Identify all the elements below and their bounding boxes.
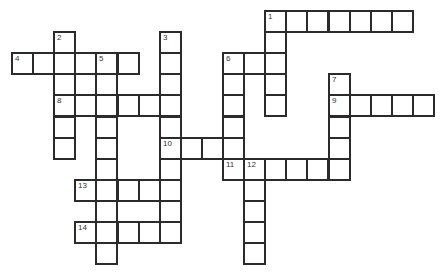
crossword-cell[interactable] bbox=[243, 221, 266, 244]
crossword-cell[interactable] bbox=[222, 137, 245, 160]
crossword-cell[interactable] bbox=[159, 179, 182, 202]
crossword-cell[interactable] bbox=[53, 116, 76, 139]
crossword-cell[interactable] bbox=[95, 200, 118, 223]
crossword-cell[interactable]: 3 bbox=[159, 31, 182, 54]
clue-number: 13 bbox=[78, 181, 87, 190]
crossword-cell[interactable] bbox=[328, 158, 351, 181]
crossword-cell[interactable] bbox=[412, 94, 435, 117]
crossword-cell[interactable] bbox=[159, 158, 182, 181]
crossword-cell[interactable] bbox=[95, 73, 118, 96]
crossword-cell[interactable] bbox=[306, 10, 329, 33]
crossword-cell[interactable] bbox=[74, 94, 97, 117]
crossword-cell[interactable] bbox=[74, 73, 97, 96]
crossword-cell[interactable] bbox=[285, 10, 308, 33]
crossword-cell[interactable]: 10 bbox=[159, 137, 182, 160]
crossword-grid: 1283104561179121314 bbox=[0, 0, 441, 275]
clue-number: 8 bbox=[57, 96, 61, 105]
crossword-cell[interactable] bbox=[222, 116, 245, 139]
clue-number: 3 bbox=[163, 33, 167, 42]
crossword-cell[interactable] bbox=[159, 73, 182, 96]
crossword-cell[interactable] bbox=[264, 31, 287, 54]
crossword-cell[interactable] bbox=[328, 116, 351, 139]
crossword-cell[interactable] bbox=[243, 179, 266, 202]
crossword-cell[interactable] bbox=[306, 158, 329, 181]
crossword-cell[interactable]: 1 bbox=[264, 10, 287, 33]
clue-number: 14 bbox=[78, 223, 87, 232]
crossword-cell[interactable] bbox=[264, 158, 287, 181]
crossword-cell[interactable] bbox=[370, 10, 393, 33]
clue-number: 1 bbox=[268, 12, 272, 21]
crossword-cell[interactable]: 2 bbox=[53, 31, 76, 54]
crossword-cell[interactable]: 12 bbox=[243, 158, 266, 181]
crossword-cell[interactable] bbox=[180, 137, 203, 160]
clue-number: 12 bbox=[247, 160, 256, 169]
clue-number: 4 bbox=[15, 54, 19, 63]
crossword-cell[interactable] bbox=[264, 52, 287, 75]
crossword-cell[interactable] bbox=[117, 221, 140, 244]
crossword-cell[interactable] bbox=[117, 94, 140, 117]
crossword-cell[interactable] bbox=[53, 73, 76, 96]
crossword-cell[interactable] bbox=[243, 242, 266, 265]
crossword-cell[interactable] bbox=[74, 52, 97, 75]
clue-number: 7 bbox=[332, 75, 336, 84]
crossword-cell[interactable] bbox=[243, 52, 266, 75]
clue-number: 6 bbox=[226, 54, 230, 63]
crossword-cell[interactable] bbox=[370, 94, 393, 117]
crossword-cell[interactable] bbox=[138, 179, 161, 202]
crossword-cell[interactable] bbox=[159, 116, 182, 139]
crossword-cell[interactable] bbox=[117, 179, 140, 202]
crossword-cell[interactable] bbox=[391, 10, 414, 33]
crossword-cell[interactable] bbox=[243, 200, 266, 223]
crossword-cell[interactable]: 13 bbox=[74, 179, 97, 202]
crossword-cell[interactable] bbox=[32, 52, 55, 75]
clue-number: 11 bbox=[226, 160, 234, 169]
crossword-cell[interactable] bbox=[159, 221, 182, 244]
crossword-cell[interactable]: 14 bbox=[74, 221, 97, 244]
crossword-cell[interactable] bbox=[95, 116, 118, 139]
crossword-cell[interactable] bbox=[117, 52, 140, 75]
crossword-cell[interactable]: 6 bbox=[222, 52, 245, 75]
crossword-cell[interactable] bbox=[95, 94, 118, 117]
crossword-cell[interactable] bbox=[138, 94, 161, 117]
crossword-cell[interactable] bbox=[95, 221, 118, 244]
crossword-cell[interactable]: 5 bbox=[95, 52, 118, 75]
clue-number: 5 bbox=[99, 54, 103, 63]
crossword-cell[interactable] bbox=[349, 94, 372, 117]
crossword-cell[interactable]: 11 bbox=[222, 158, 245, 181]
crossword-cell[interactable]: 9 bbox=[328, 94, 351, 117]
clue-number: 2 bbox=[57, 33, 61, 42]
clue-number: 10 bbox=[163, 139, 172, 148]
crossword-cell[interactable] bbox=[391, 94, 414, 117]
crossword-cell[interactable] bbox=[328, 10, 351, 33]
clue-number: 9 bbox=[332, 96, 336, 105]
crossword-cell[interactable] bbox=[222, 94, 245, 117]
crossword-cell[interactable] bbox=[222, 73, 245, 96]
crossword-cell[interactable] bbox=[159, 200, 182, 223]
crossword-cell[interactable] bbox=[95, 242, 118, 265]
crossword-cell[interactable]: 4 bbox=[11, 52, 34, 75]
crossword-cell[interactable] bbox=[95, 137, 118, 160]
crossword-cell[interactable] bbox=[285, 158, 308, 181]
crossword-cell[interactable] bbox=[264, 94, 287, 117]
crossword-cell[interactable] bbox=[138, 221, 161, 244]
crossword-cell[interactable] bbox=[264, 73, 287, 96]
crossword-cell[interactable] bbox=[201, 137, 224, 160]
crossword-cell[interactable]: 7 bbox=[328, 73, 351, 96]
crossword-cell[interactable] bbox=[159, 94, 182, 117]
crossword-cell[interactable] bbox=[95, 179, 118, 202]
crossword-cell[interactable] bbox=[159, 52, 182, 75]
crossword-cell[interactable] bbox=[95, 158, 118, 181]
crossword-cell[interactable] bbox=[349, 10, 372, 33]
crossword-cell[interactable] bbox=[328, 137, 351, 160]
crossword-cell[interactable] bbox=[53, 137, 76, 160]
crossword-cell[interactable]: 8 bbox=[53, 94, 76, 117]
crossword-cell[interactable] bbox=[53, 52, 76, 75]
